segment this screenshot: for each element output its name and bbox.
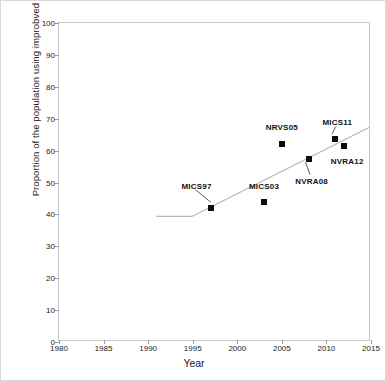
- x-tick-label: 2010: [318, 344, 336, 353]
- data-point-label: NVRA12: [331, 156, 364, 165]
- y-tick-label: 80: [46, 82, 55, 91]
- label-leader-line: [306, 162, 310, 174]
- y-tick-mark: [55, 246, 59, 247]
- plot-area: 0102030405060708090100 19801985199019952…: [58, 22, 370, 341]
- label-leader-line: [332, 127, 335, 134]
- y-tick-mark: [55, 214, 59, 215]
- data-point-marker[interactable]: [261, 199, 267, 205]
- data-point-marker[interactable]: [306, 156, 312, 162]
- data-point-label: NRVS05: [266, 123, 298, 132]
- x-tick-label: 1980: [50, 344, 68, 353]
- y-tick-label: 60: [46, 146, 55, 155]
- y-tick-mark: [55, 151, 59, 152]
- y-tick-label: 40: [46, 210, 55, 219]
- data-point-marker[interactable]: [341, 143, 347, 149]
- y-tick-label: 90: [46, 50, 55, 59]
- y-tick-mark: [55, 23, 59, 24]
- data-point-label: MICS03: [249, 181, 279, 190]
- y-tick-label: 100: [42, 19, 55, 28]
- x-tick-label: 2005: [273, 344, 291, 353]
- label-leader-line: [196, 190, 211, 202]
- y-tick-label: 10: [46, 306, 55, 315]
- x-axis-title: Year: [1, 357, 386, 369]
- y-tick-label: 30: [46, 242, 55, 251]
- x-tick-label: 1995: [184, 344, 202, 353]
- y-tick-label: 20: [46, 274, 55, 283]
- data-point-marker[interactable]: [332, 136, 338, 142]
- y-tick-label: 50: [46, 178, 55, 187]
- y-axis-title: Proportion of the population using impro…: [30, 0, 41, 199]
- chart-figure: Proportion of the population using impro…: [0, 0, 386, 381]
- data-point-label: NVRA08: [295, 176, 328, 185]
- y-tick-mark: [55, 278, 59, 279]
- y-tick-mark: [55, 310, 59, 311]
- data-point-label: MICS11: [322, 118, 352, 127]
- data-point-label: MICS97: [181, 182, 211, 191]
- data-point-marker[interactable]: [208, 205, 214, 211]
- data-point-marker[interactable]: [279, 141, 285, 147]
- x-tick-label: 1990: [139, 344, 157, 353]
- y-tick-label: 70: [46, 114, 55, 123]
- x-tick-label: 1985: [95, 344, 113, 353]
- x-tick-label: 2015: [362, 344, 380, 353]
- y-tick-mark: [55, 183, 59, 184]
- y-tick-mark: [55, 119, 59, 120]
- y-tick-mark: [55, 87, 59, 88]
- x-tick-label: 2000: [228, 344, 246, 353]
- y-tick-mark: [55, 55, 59, 56]
